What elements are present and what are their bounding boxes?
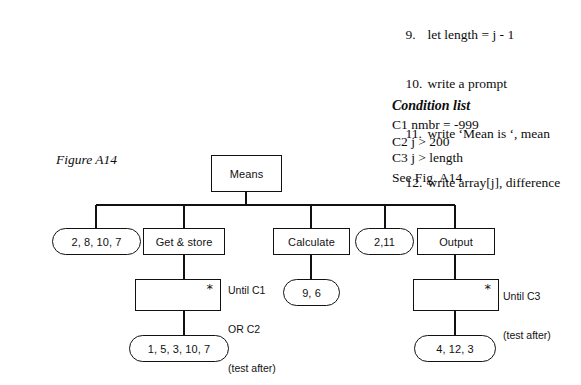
condition-item: C1 nmbr = -999 (392, 117, 479, 134)
node-2-8-10-7: 2, 8, 10, 7 (52, 228, 141, 255)
pseudocode-line-number: 9. (406, 27, 428, 44)
condition-list: C1 nmbr = -999 C2 j > 200 C3 j > length (392, 117, 479, 167)
annotation-line: (test after) (503, 329, 551, 342)
pseudocode-line-number: 10. (406, 76, 428, 93)
condition-list-heading: Condition list (392, 98, 470, 114)
node-label: 2,11 (374, 236, 395, 248)
node-4-12-3: 4, 12, 3 (414, 335, 496, 362)
node-label: Output (439, 236, 473, 248)
node-9-6: 9, 6 (283, 279, 340, 306)
iteration-asterisk-icon: * (206, 282, 213, 295)
node-loop-output: * (413, 279, 499, 311)
node-label: 9, 6 (302, 287, 321, 299)
figure-label: Figure A14 (56, 152, 117, 168)
annotation-until-c3: Until C3 (test after) (503, 264, 551, 355)
pseudocode-line-text: write a prompt (428, 76, 507, 91)
node-label: 2, 8, 10, 7 (71, 236, 121, 248)
condition-item: C3 j > length (392, 150, 479, 167)
annotation-line: OR C2 (228, 323, 276, 336)
condition-item: C2 j > 200 (392, 134, 479, 151)
annotation-line: (test after) (228, 362, 276, 375)
iteration-asterisk-icon: * (484, 282, 491, 295)
node-1-5-3-10-7: 1, 5, 3, 10, 7 (129, 335, 229, 362)
node-output: Output (417, 228, 495, 255)
node-calculate: Calculate (273, 228, 350, 255)
node-label: 4, 12, 3 (436, 343, 474, 355)
node-label: Means (230, 168, 264, 180)
node-label: Calculate (288, 236, 335, 248)
annotation-line: Until C3 (503, 290, 551, 303)
see-figure-reference: See Fig. A14 (392, 170, 462, 186)
pseudocode-line-text: let length = j - 1 (428, 27, 515, 42)
node-2-11: 2,11 (355, 228, 414, 255)
node-means: Means (211, 155, 282, 192)
annotation-until-c1-or-c2: Until C1 OR C2 (test after) (228, 258, 276, 385)
node-loop-get-and-store: * (135, 279, 221, 311)
node-label: Get & store (156, 236, 213, 248)
node-get-and-store: Get & store (143, 228, 225, 255)
pseudocode-line: 9.let length = j - 1 (392, 10, 560, 60)
annotation-line: Until C1 (228, 284, 276, 297)
node-label: 1, 5, 3, 10, 7 (148, 343, 211, 355)
